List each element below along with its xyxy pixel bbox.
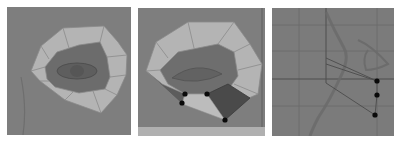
panel-eye-ring-mesh <box>7 7 131 135</box>
panel-ring-selected-vertices <box>138 8 265 136</box>
panel-side-view-grid <box>272 8 394 136</box>
side-view-grid-illustration <box>272 8 394 136</box>
ring-selection-illustration <box>138 8 265 136</box>
eye-ring-mesh-illustration <box>7 7 131 135</box>
